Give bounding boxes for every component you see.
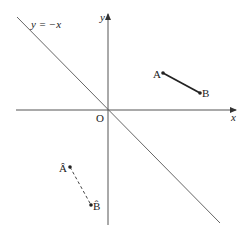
mirror-line-label: y = −x [30,18,61,30]
y-axis-label: y [99,11,105,23]
mirror-line [17,17,220,223]
reflection-diagram: y x O y = −x A B Â B̂ [0,0,249,232]
point-a-hat [68,165,72,169]
point-b-hat-label: B̂ [93,200,100,212]
point-a-label: A [153,68,161,80]
point-a [161,71,165,75]
point-a-hat-label: Â [59,162,67,174]
origin-label: O [96,112,104,124]
segment-ab: A B [153,68,209,99]
segment-a-hat-b-hat: Â B̂ [59,162,100,212]
point-b-label: B [202,87,209,99]
x-axis-label: x [230,111,236,123]
